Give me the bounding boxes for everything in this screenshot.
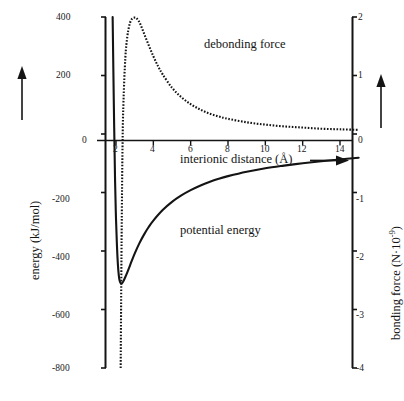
debonding-force-curve [121, 18, 359, 368]
left-tick-label: -600 [52, 310, 70, 320]
bottom-tick-label: 2 [113, 144, 118, 154]
right-axis-title: bonding force (N·10-9) [387, 226, 404, 340]
left-tick-label: 400 [56, 12, 71, 22]
left-tick-label: -200 [52, 194, 70, 204]
right-tick-label: -4 [356, 363, 364, 373]
right-tick-label: 2 [358, 12, 363, 22]
left-tick-label: -400 [52, 252, 70, 262]
x-axis-right-arrow-icon [310, 156, 349, 166]
debonding-force-label: debonding force [204, 37, 286, 52]
potential-energy-label: potential energy [180, 223, 261, 238]
bottom-tick-label: 4 [150, 144, 155, 154]
right-axis-up-arrow-icon [376, 74, 385, 128]
right-axis-title-close: ) [389, 226, 403, 230]
right-axis-title-exponent: -9 [387, 230, 397, 237]
bottom-tick-label: 12 [297, 144, 307, 154]
right-tick-label: -1 [356, 194, 364, 204]
left-tick-label: -800 [52, 363, 70, 373]
left-tick-label: 0 [82, 135, 87, 145]
bottom-tick-label: 14 [335, 144, 345, 154]
right-tick-label: 1 [358, 70, 363, 80]
bottom-axis-title: interionic distance (Å) [180, 152, 292, 167]
right-tick-label: -2 [356, 252, 364, 262]
left-axis-title: energy (kJ/mol) [28, 201, 43, 280]
right-axis-title-main: bonding force (N·10 [389, 237, 403, 340]
right-tick-label: -3 [356, 310, 364, 320]
left-axis-up-arrow-icon [17, 66, 26, 120]
left-tick-label: 200 [56, 70, 71, 80]
right-tick-label: 0 [358, 135, 363, 145]
